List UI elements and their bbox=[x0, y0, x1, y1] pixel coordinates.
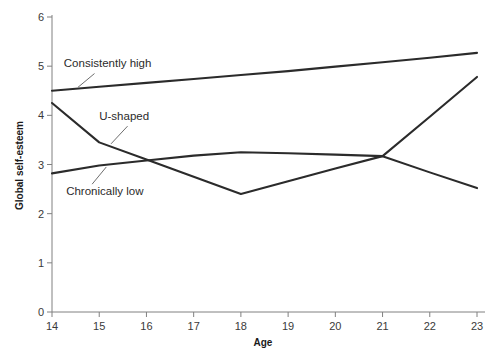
y-tick-label: 6 bbox=[22, 11, 44, 23]
y-tick-label: 0 bbox=[22, 306, 44, 318]
chart-figure: 012345614151617181920212223 Consistently… bbox=[0, 0, 497, 350]
chart-series-lines bbox=[52, 53, 477, 194]
x-tick-label: 14 bbox=[46, 320, 58, 332]
series-label: Consistently high bbox=[64, 57, 152, 69]
y-tick-label: 5 bbox=[22, 60, 44, 72]
series-label: Chronically low bbox=[66, 185, 143, 197]
y-tick-label: 2 bbox=[22, 208, 44, 220]
x-tick-label: 15 bbox=[93, 320, 105, 332]
x-tick-label: 19 bbox=[282, 320, 294, 332]
x-tick-label: 21 bbox=[376, 320, 388, 332]
x-tick-label: 23 bbox=[471, 320, 483, 332]
series-label: U-shaped bbox=[99, 110, 149, 122]
x-tick-label: 16 bbox=[140, 320, 152, 332]
y-tick-label: 3 bbox=[22, 159, 44, 171]
y-tick-label: 4 bbox=[22, 109, 44, 121]
series-line bbox=[52, 77, 477, 194]
x-tick-label: 22 bbox=[424, 320, 436, 332]
x-tick-label: 20 bbox=[329, 320, 341, 332]
series-line bbox=[52, 152, 477, 188]
x-tick-label: 18 bbox=[235, 320, 247, 332]
y-tick-label: 1 bbox=[22, 257, 44, 269]
x-axis-title: Age bbox=[254, 337, 273, 348]
x-tick-label: 17 bbox=[188, 320, 200, 332]
chart-plot-area bbox=[0, 0, 497, 350]
y-axis-title: Global self-esteem bbox=[14, 121, 25, 210]
